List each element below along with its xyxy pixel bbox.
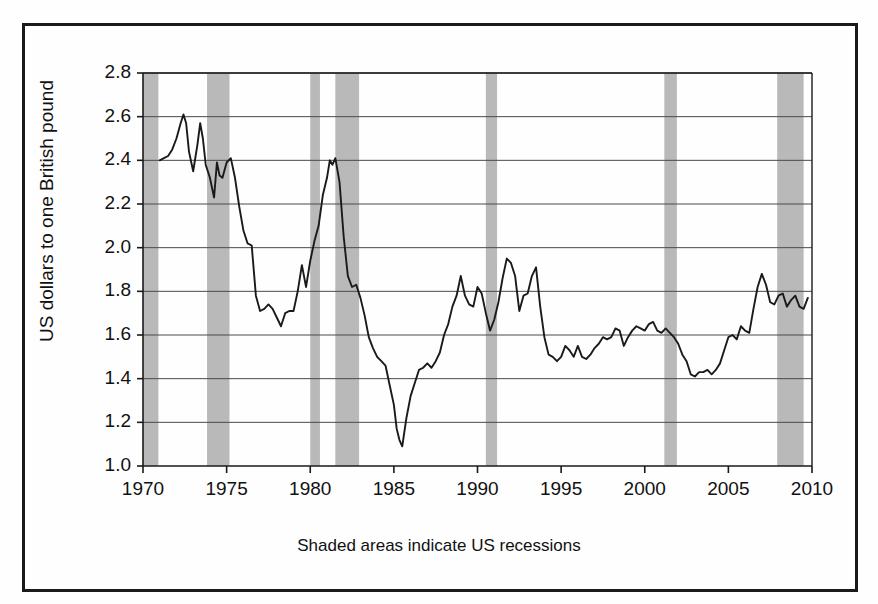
recession-band-4 (486, 73, 497, 466)
recession-band-1 (207, 73, 229, 466)
y-tick-label-2.0: 2.0 (81, 236, 131, 258)
y-tick-label-2.8: 2.8 (81, 61, 131, 83)
y-tick-label-1.6: 1.6 (81, 323, 131, 345)
x-tick-label-1990: 1990 (443, 478, 513, 500)
recession-bands (143, 73, 804, 466)
x-tick-label-1985: 1985 (359, 478, 429, 500)
chart-caption: Shaded areas indicate US recessions (0, 536, 878, 556)
x-tick-label-1980: 1980 (275, 478, 345, 500)
gridlines (143, 73, 812, 422)
recession-band-2 (310, 73, 320, 466)
x-tick-label-2000: 2000 (610, 478, 680, 500)
recession-band-0 (143, 73, 158, 466)
recession-band-5 (664, 73, 677, 466)
x-tick-label-1975: 1975 (192, 478, 262, 500)
x-tick-label-1970: 1970 (108, 478, 178, 500)
series-0-polyline (160, 114, 808, 446)
y-tick-label-1.8: 1.8 (81, 279, 131, 301)
recession-band-6 (777, 73, 803, 466)
y-tick-label-2.6: 2.6 (81, 105, 131, 127)
y-tick-label-2.4: 2.4 (81, 148, 131, 170)
chart-page: 1.01.21.41.61.82.02.22.42.62.8 197019751… (0, 0, 878, 604)
x-tick-label-1995: 1995 (526, 478, 596, 500)
tick-marks (137, 73, 812, 473)
y-tick-label-2.2: 2.2 (81, 192, 131, 214)
y-axis-title: US dollars to one British pound (36, 46, 58, 376)
axis-lines (143, 73, 812, 466)
exchange-rate-line-chart (0, 0, 878, 604)
data-series-line (160, 114, 808, 446)
chart-figure: 1.01.21.41.61.82.02.22.42.62.8 197019751… (0, 0, 878, 604)
y-tick-label-1.2: 1.2 (81, 410, 131, 432)
x-tick-label-2010: 2010 (777, 478, 847, 500)
y-tick-label-1.4: 1.4 (81, 367, 131, 389)
y-tick-label-1.0: 1.0 (81, 454, 131, 476)
x-tick-label-2005: 2005 (693, 478, 763, 500)
